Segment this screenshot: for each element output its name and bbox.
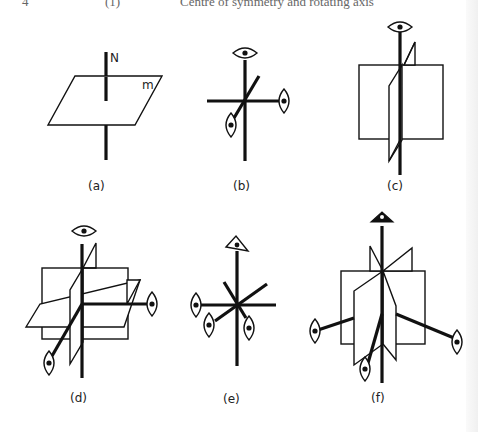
panel-label-d: (d) (70, 391, 87, 405)
two-fold-symbol-front-left (204, 313, 214, 337)
panel-label-e: (e) (223, 392, 240, 406)
panel-c: (c) (359, 22, 443, 193)
panel-d: (d) (26, 226, 157, 405)
panel-label-b: (b) (233, 179, 250, 193)
panel-a: N m (a) (48, 51, 162, 193)
two-fold-symbol-left (191, 293, 201, 317)
plane-label-m: m (142, 78, 154, 92)
two-fold-symbol-top (72, 226, 96, 236)
panel-b: (b) (207, 48, 289, 193)
panel-label-f: (f) (371, 391, 385, 405)
symmetry-figure: N m (a) (b) (c) (d) (0, 0, 478, 432)
two-fold-symbol-right (452, 330, 462, 354)
two-fold-symbol-top (388, 22, 412, 32)
panel-label-c: (c) (387, 179, 403, 193)
two-fold-symbol-front-right (244, 316, 254, 340)
two-fold-symbol-right (147, 292, 157, 316)
two-fold-symbol-top (233, 48, 257, 58)
panel-f: (f) (310, 212, 462, 405)
normal-label-n: N (110, 51, 119, 65)
two-fold-symbol-right (279, 89, 289, 113)
panel-e: (e) (191, 236, 276, 406)
panel-label-a: (a) (88, 179, 105, 193)
two-fold-symbol-left (310, 319, 320, 343)
